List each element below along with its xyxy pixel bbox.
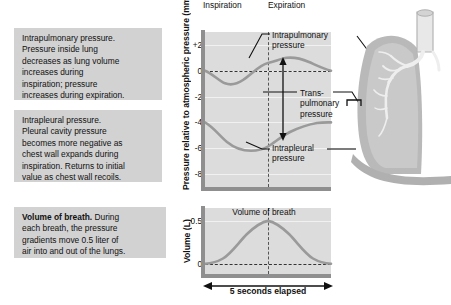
callout-heading: Volume of breath. [22, 212, 92, 222]
callout-heading: Intrapleural pressure. [22, 115, 155, 126]
callout-line: During [94, 212, 119, 222]
annotation-line: Intrapleural [272, 143, 314, 153]
annotation-intrapleural-pressure: Intrapleural pressure [272, 143, 314, 164]
annotation-transpulmonary-pressure: Trans- pulmonary pressure [300, 88, 339, 119]
volume-chart-title: Volume of breath [183, 207, 345, 217]
lung-anatomy-illustration [345, 8, 451, 198]
callout-line: air into and out of the lungs. [22, 246, 159, 257]
callout-line: chest wall expands during [22, 149, 155, 160]
callout-line: becomes more negative as [22, 138, 155, 149]
callout-intrapleural-pressure: Intrapleural pressure. Pleural cavity pr… [14, 110, 162, 182]
callout-line: inspiration. Returns to initial [22, 161, 155, 172]
annotation-line: pulmonary [300, 98, 339, 108]
pressure-y-axis [201, 30, 205, 191]
callout-line: decreases as lung volume [22, 56, 155, 67]
annotation-line: Intrapulmonary [272, 30, 328, 40]
lung-anatomy-svg [345, 8, 451, 198]
volume-y-axis [201, 206, 205, 277]
pressure-y-axis-label: Pressure relative to atmospheric pressur… [181, 28, 191, 190]
volume-curve [205, 208, 331, 274]
annotation-line: pressure [300, 109, 339, 119]
callout-line: increases during [22, 67, 155, 78]
callout-line: increases during expiration. [22, 90, 155, 101]
callout-volume-of-breath: Volume of breath. During each breath, th… [14, 207, 166, 258]
callout-line: inspiration; pressure [22, 79, 155, 90]
trachea [417, 12, 433, 52]
lung-tissue [366, 43, 418, 168]
callout-line: Pleural cavity pressure [22, 126, 155, 137]
callout-line: each breath, the pressure [22, 223, 159, 234]
intrapulmonary-pressure-curve [205, 58, 331, 85]
volume-of-breath-curve [205, 221, 331, 264]
volume-chart: Volume (L) 0.5 0 Volume of breath 5 seco… [183, 205, 345, 300]
callout-heading: Intrapulmonary pressure. [22, 33, 155, 44]
pressure-x-axis [201, 187, 331, 191]
callout-line: value as chest wall recoils. [22, 172, 155, 183]
phase-label-inspiration: Inspiration [203, 0, 242, 10]
annotation-line: pressure [272, 40, 328, 50]
transpulmonary-arrow [279, 57, 286, 141]
callout-line: gradients move 0.5 liter of [22, 235, 159, 246]
annotation-line: pressure [272, 153, 314, 163]
figure-root: Intrapulmonary pressure. Pressure inside… [0, 0, 451, 305]
trachea-opening [417, 10, 433, 16]
callout-line: Pressure inside lung [22, 44, 155, 55]
elapsed-time-label: 5 seconds elapsed [205, 286, 331, 296]
volume-plot-area: 0.5 0 [205, 208, 331, 274]
callout-intrapulmonary-pressure: Intrapulmonary pressure. Pressure inside… [14, 28, 162, 100]
phase-label-expiration: Expiration [268, 0, 305, 10]
annotation-line: Trans- [300, 88, 339, 98]
callout-first-line: Volume of breath. During [22, 212, 159, 223]
annotation-intrapulmonary-pressure: Intrapulmonary pressure [272, 30, 328, 51]
